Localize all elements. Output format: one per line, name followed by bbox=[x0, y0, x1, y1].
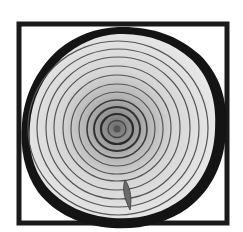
pith-center bbox=[114, 126, 121, 133]
tree-ring-illustration bbox=[0, 0, 243, 232]
